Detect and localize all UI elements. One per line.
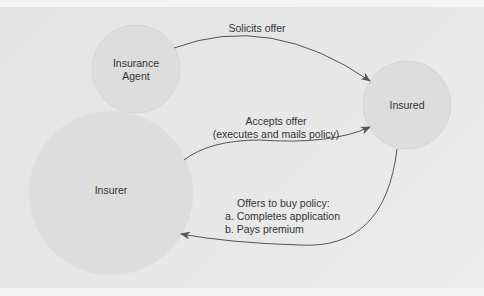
accepts-label: Accepts offer (executes and mails policy…	[213, 115, 340, 141]
agent-label: Insurance Agent	[113, 57, 159, 83]
insured-label: Insured	[389, 99, 424, 112]
solicits-label: Solicits offer	[229, 22, 286, 35]
offers-label: Offers to buy policy: a. Completes appli…	[225, 197, 340, 236]
solicits-arrow	[174, 36, 370, 81]
offers-label-line2: a. Completes application	[225, 210, 340, 223]
accepts-label-line2: (executes and mails policy)	[213, 128, 340, 141]
diagram-svg	[0, 0, 484, 296]
offers-label-line3: b. Pays premium	[225, 223, 340, 236]
agent-label-line1: Insurance	[113, 57, 159, 70]
agent-label-line2: Agent	[113, 70, 159, 83]
insurer-label: Insurer	[95, 184, 128, 197]
accepts-label-line1: Accepts offer	[213, 115, 340, 128]
offers-label-line1: Offers to buy policy:	[225, 197, 340, 210]
